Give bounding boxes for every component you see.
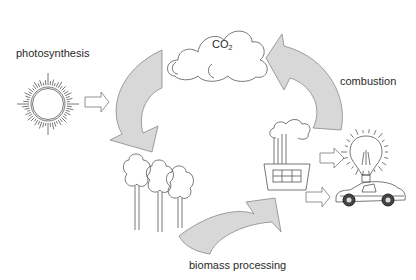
factory-to-car-arrow (306, 187, 330, 207)
ray (27, 99, 30, 100)
ray (52, 123, 54, 130)
ray (43, 83, 44, 86)
photosynthesis-label: photosynthesis (16, 47, 89, 59)
ray (64, 114, 67, 116)
lightbulb-icon (341, 129, 388, 182)
ray (56, 121, 57, 124)
ray (35, 120, 38, 125)
ray (58, 120, 61, 125)
ray (66, 96, 70, 97)
ray (382, 140, 385, 142)
ray (65, 112, 70, 115)
ray (60, 86, 62, 89)
ray (369, 129, 370, 133)
factory-icon (264, 120, 310, 191)
sun-icon (17, 73, 79, 135)
ray (347, 162, 350, 164)
ray (347, 140, 350, 142)
biomass-processing-label: biomass processing (189, 259, 286, 271)
ray (67, 106, 72, 107)
co2-label: CO2 (212, 38, 232, 51)
ray (67, 108, 74, 110)
ray (23, 101, 29, 102)
ray (64, 91, 68, 94)
factory-to-co2-arrow (266, 34, 342, 130)
ray (29, 114, 32, 116)
ray (378, 166, 382, 171)
ray (352, 166, 354, 168)
co2-to-trees-arrow (110, 50, 162, 152)
combustion-label: combustion (340, 75, 396, 87)
ray (63, 116, 67, 119)
car-icon (336, 182, 405, 206)
ray (374, 130, 376, 135)
ray (66, 110, 70, 111)
ray (60, 119, 62, 122)
ray (384, 146, 388, 147)
factory-to-lightbulb-arrow (320, 148, 344, 168)
ray (54, 122, 56, 127)
ray (43, 123, 44, 128)
ray (374, 169, 375, 172)
co2-text: CO (212, 38, 229, 50)
diagram-canvas (0, 0, 416, 280)
ray (52, 80, 53, 86)
ray (356, 129, 358, 134)
ray (369, 171, 370, 175)
trees-icon (123, 154, 193, 232)
ray (67, 98, 73, 99)
ray (63, 90, 65, 92)
ray (382, 162, 386, 165)
ray (25, 108, 30, 109)
ray (384, 157, 388, 158)
ray (25, 93, 31, 96)
ray (25, 112, 30, 115)
co2-subscript: 2 (229, 44, 233, 51)
ray (27, 110, 30, 111)
ray (38, 83, 40, 87)
ray (350, 134, 353, 138)
ray (356, 169, 358, 174)
ray (25, 96, 30, 98)
ray (32, 88, 34, 90)
trees-to-factory-arrow (179, 198, 281, 254)
ray (34, 119, 36, 121)
sun-to-cycle-arrow (85, 92, 109, 112)
ray (40, 80, 42, 86)
ray (39, 122, 41, 129)
ray (378, 133, 382, 138)
ray (22, 106, 29, 107)
ray (345, 146, 348, 147)
ray (38, 121, 40, 125)
ray (56, 82, 58, 87)
ray (54, 83, 55, 86)
ray (29, 92, 32, 94)
ray (33, 85, 36, 89)
ray (65, 93, 71, 96)
ray (45, 80, 46, 85)
biomass-cycle-diagram: photosynthesis CO2 combustion biomass pr… (0, 0, 416, 280)
ray (31, 117, 35, 121)
